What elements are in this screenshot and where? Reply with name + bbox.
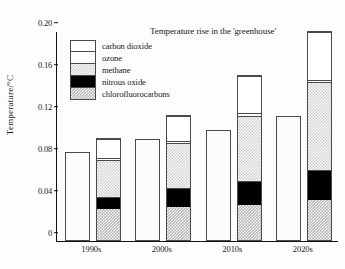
bar-segment-chlorofluorocarbons	[167, 207, 190, 240]
x-axis-group-label: 2010s	[197, 244, 268, 260]
stacked-bar	[237, 75, 262, 241]
legend-swatch-methane	[70, 64, 96, 76]
bar-segment-nitrous-oxide	[167, 188, 190, 207]
legend-item: carbon dioxide	[70, 40, 170, 52]
stacked-bar	[166, 115, 191, 241]
legend-label: chlorofluorocarbons	[102, 90, 170, 99]
bar-segment-methane	[97, 160, 120, 197]
legend-swatch-ozone	[70, 52, 96, 64]
total-bar	[65, 152, 90, 241]
total-bar	[206, 130, 231, 241]
legend-label: carbon dioxide	[102, 42, 152, 51]
bar-segment-methane	[308, 82, 331, 170]
y-axis-tick-label: 0.04	[18, 186, 57, 195]
legend-item: ozone	[70, 52, 170, 64]
legend-item: chlorofluorocarbons	[70, 88, 170, 100]
legend-item: methane	[70, 64, 170, 76]
y-axis-tick-label: 0.08	[18, 144, 57, 153]
bar-segment-carbon-dioxide	[238, 76, 261, 113]
legend-swatch-n2o	[70, 76, 96, 88]
bar-segment-chlorofluorocarbons	[308, 200, 331, 240]
x-axis-group-label: 2000s	[127, 244, 198, 260]
y-axis-tick-label: 0.12	[18, 102, 57, 111]
legend-swatch-cfc	[70, 88, 96, 100]
bar-segment-chlorofluorocarbons	[238, 205, 261, 240]
bar-segment-carbon-dioxide	[97, 139, 120, 158]
legend-swatch-co2	[70, 40, 96, 52]
y-axis-tick-label: 0.20	[18, 18, 57, 27]
chart-legend: carbon dioxideozonemethanenitrous oxidec…	[70, 40, 170, 100]
bar-segment-nitrous-oxide	[308, 170, 331, 200]
legend-item: nitrous oxide	[70, 76, 170, 88]
bar-segment-nitrous-oxide	[97, 197, 120, 209]
stacked-bar	[307, 31, 332, 241]
bar-segment-carbon-dioxide	[308, 32, 331, 80]
bar-segment-nitrous-oxide	[238, 181, 261, 205]
y-axis-tick-label: 0	[18, 228, 57, 237]
total-bar	[135, 139, 160, 241]
x-axis-group-label: 1990s	[56, 244, 127, 260]
stacked-bar	[96, 138, 121, 241]
y-axis-title: Temperature/°C	[5, 0, 19, 210]
x-axis-group-label: 2020s	[268, 244, 339, 260]
legend-label: ozone	[102, 54, 122, 63]
x-axis-labels: 1990s2000s2010s2020s	[56, 244, 338, 260]
legend-label: nitrous oxide	[102, 78, 146, 87]
bar-segment-methane	[238, 116, 261, 181]
y-axis-tick-label: 0.16	[18, 60, 57, 69]
legend-label: methane	[102, 66, 130, 75]
bar-segment-chlorofluorocarbons	[97, 209, 120, 240]
bar-segment-carbon-dioxide	[167, 116, 190, 141]
greenhouse-temperature-chart: Temperature rise in the 'greenhouse' Tem…	[0, 0, 345, 269]
bar-group	[198, 32, 268, 241]
bar-segment-methane	[167, 143, 190, 188]
bar-group	[268, 32, 338, 241]
total-bar	[276, 116, 301, 241]
